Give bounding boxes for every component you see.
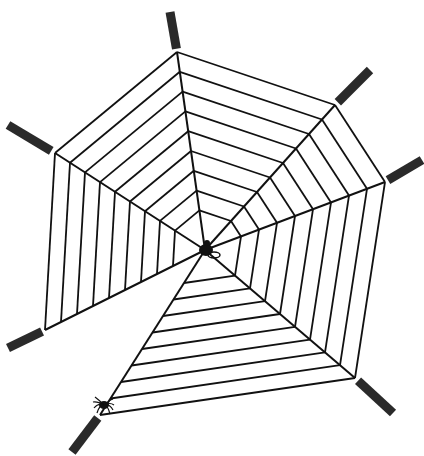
ring-segment xyxy=(180,72,322,120)
ring-segment xyxy=(335,105,385,182)
ring-segment xyxy=(153,314,281,333)
stick-top-right xyxy=(338,70,370,102)
ring-segment xyxy=(296,149,331,203)
ring-segment xyxy=(322,120,367,189)
ring-segment xyxy=(77,172,85,314)
ring-segment xyxy=(174,288,251,299)
ring-segment xyxy=(295,209,313,327)
ring-segment xyxy=(141,211,145,282)
ring-segment xyxy=(45,153,55,330)
ring-segment xyxy=(132,340,311,366)
ring-segment xyxy=(197,191,244,207)
ring-segment xyxy=(125,202,130,291)
ring-segment xyxy=(157,221,160,274)
ring-segment xyxy=(355,182,385,378)
ring-segment xyxy=(231,221,241,236)
spider-web-scene xyxy=(0,0,424,456)
ring-segment xyxy=(188,131,283,163)
ring-segment xyxy=(70,72,180,163)
stick-left-lower xyxy=(8,331,42,348)
ring-segment xyxy=(145,171,194,211)
ring-segment xyxy=(163,301,265,316)
ring-segment xyxy=(265,223,277,301)
ring-segment xyxy=(55,52,177,153)
stick-top xyxy=(170,12,176,49)
stick-left-upper xyxy=(8,125,51,151)
ring-segment xyxy=(257,192,277,223)
ring-segment xyxy=(100,111,185,182)
ring-segment xyxy=(199,210,231,221)
ring-segment xyxy=(173,231,175,266)
ring-segment xyxy=(340,189,367,365)
ring-segment xyxy=(121,352,325,382)
ring-segment xyxy=(130,151,191,202)
ring-segment xyxy=(185,111,296,148)
ring-segment xyxy=(309,134,349,196)
ring-segment xyxy=(175,210,199,230)
ring-segment xyxy=(244,207,259,230)
ring-segment xyxy=(280,216,295,314)
ring-segment xyxy=(194,171,257,192)
ring-segment xyxy=(235,236,241,275)
spider-icon xyxy=(93,397,114,414)
ring-segment xyxy=(100,378,355,415)
ring-segment xyxy=(283,163,313,209)
ring-segment xyxy=(183,92,309,134)
ring-segment xyxy=(184,276,235,283)
ring-segment xyxy=(93,182,100,306)
stick-bottom-left xyxy=(72,418,98,452)
ring-segment xyxy=(310,202,331,339)
stick-bottom-right xyxy=(358,381,393,413)
stick-right xyxy=(388,160,422,180)
web-spokes xyxy=(45,52,385,415)
ring-segment xyxy=(111,365,341,398)
ring-segment xyxy=(61,163,70,322)
ring-segment xyxy=(250,230,259,289)
ring-segment xyxy=(270,178,295,217)
ring-segment xyxy=(85,92,183,173)
ring-segment xyxy=(109,192,115,298)
